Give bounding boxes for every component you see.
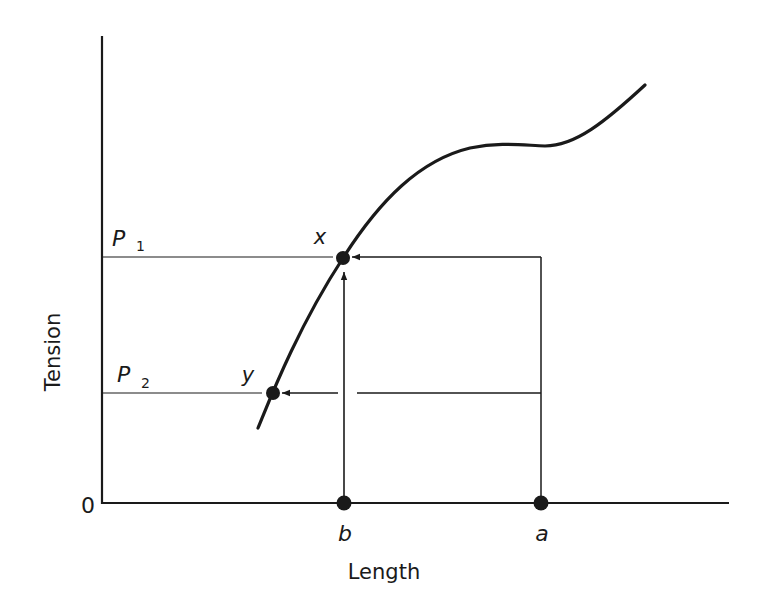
y-point-label: y: [241, 363, 255, 387]
p1-label: P: [112, 226, 126, 251]
p2-label: P: [117, 362, 131, 387]
x-point-label: x: [313, 225, 327, 249]
point-y: [266, 386, 280, 400]
y-axis-label: Tension: [41, 313, 65, 392]
b-point-label: b: [338, 521, 352, 546]
x-axis-label: Length: [348, 560, 420, 584]
length-tension-diagram: Tension Length 0 P 1 P 2 x y b a: [0, 0, 768, 609]
p1-subscript: 1: [136, 238, 145, 254]
point-b: [337, 496, 352, 511]
a-point-label: a: [535, 521, 548, 546]
origin-label: 0: [81, 493, 95, 518]
point-a: [534, 496, 549, 511]
p2-subscript: 2: [141, 375, 150, 391]
point-x: [336, 251, 350, 265]
